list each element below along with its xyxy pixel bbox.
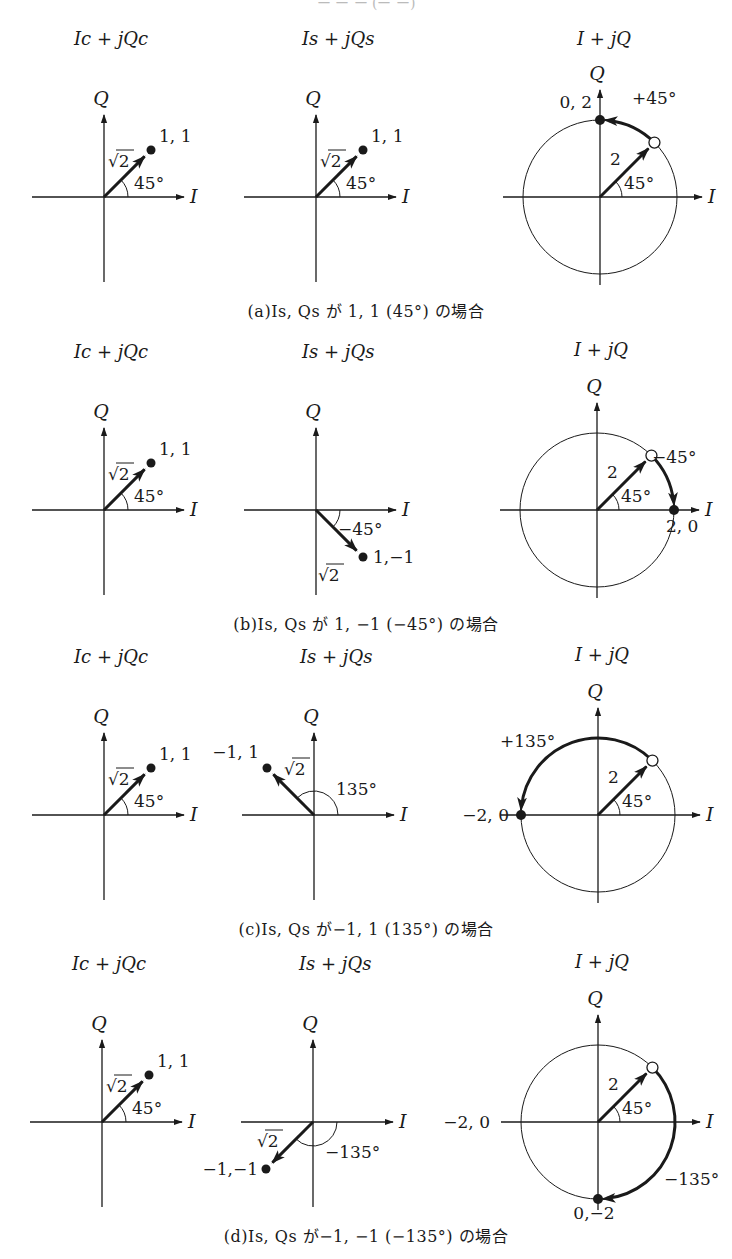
- signal-a-i-axis-label: I: [401, 185, 410, 207]
- signal-c-length-label: √2: [284, 759, 306, 779]
- result-b-start-angle-arc: [613, 494, 619, 510]
- panel-a: Ic + jQcIs + jQsI + jQIQ1, 1√245°IQ1, 1√…: [32, 28, 716, 285]
- carrier-c-q-axis-label: Q: [93, 705, 109, 727]
- result-b-end-point-label: 2, 0: [666, 516, 698, 536]
- signal-d-angle-label: −135°: [325, 1142, 380, 1162]
- title-result: I + jQ: [576, 28, 631, 49]
- result-c-start-point: [647, 755, 658, 766]
- title-result: I + jQ: [574, 644, 629, 665]
- signal-d-i-axis-label: I: [398, 1110, 407, 1132]
- signal-c-i-axis-label: I: [399, 803, 408, 825]
- result-c-end-point: [516, 810, 526, 820]
- signal-c-point-label: −1, 1: [212, 742, 259, 762]
- signal-a-point-dot: [359, 145, 368, 154]
- signal-a-q-axis-label: Q: [305, 87, 321, 109]
- title-carrier: Ic + jQc: [73, 341, 148, 362]
- result-d-radius-label: 2: [608, 1074, 619, 1094]
- signal-b-i-axis-label: I: [401, 498, 410, 520]
- carrier-b-i-axis-label: I: [189, 498, 198, 520]
- signal-b-length-label: √2: [318, 565, 340, 585]
- carrier-d-i-axis-label: I: [187, 1110, 196, 1132]
- result-a-start-angle-arc: [616, 181, 622, 197]
- caption-b: (b)Is, Qs が 1, −1 (−45°) の場合: [0, 611, 732, 635]
- carrier-b-point-label: 1, 1: [159, 439, 191, 459]
- result-b-end-point: [669, 505, 679, 515]
- carrier-a-point-dot: [147, 145, 156, 154]
- caption-a: (a)Is, Qs が 1, 1 (45°) の場合: [0, 298, 732, 322]
- signal-c-vector-arrow: [273, 774, 314, 815]
- result-d-start-angle-label: 45°: [622, 1098, 652, 1118]
- panel-d: Ic + jQcIs + jQsI + jQIQ1, 1√245°IQ−1,−1…: [30, 951, 719, 1223]
- result-d-left-axis-label: −2, 0: [443, 1112, 490, 1132]
- carrier-d-point-label: 1, 1: [157, 1051, 189, 1071]
- result-a-start-point: [649, 137, 660, 148]
- result-d-q-axis-label: Q: [587, 987, 603, 1009]
- signal-b-point-dot: [359, 553, 368, 562]
- carrier-b-q-axis-label: Q: [93, 400, 109, 422]
- result-b-i-axis-label: I: [704, 498, 713, 520]
- signal-c-q-axis-label: Q: [303, 705, 319, 727]
- title-signal: Is + jQs: [301, 341, 374, 362]
- result-d-start-point: [647, 1062, 658, 1073]
- carrier-a-i-axis-label: I: [189, 185, 198, 207]
- carrier-a-length-label: √2: [108, 151, 130, 171]
- carrier-b-point-dot: [147, 458, 156, 467]
- carrier-c-length-label: √2: [108, 769, 130, 789]
- carrier-c-i-axis-label: I: [189, 803, 198, 825]
- carrier-c-angle-arc: [121, 798, 128, 815]
- result-c-start-angle-label: 45°: [622, 791, 652, 811]
- signal-b-point-label: 1,−1: [373, 547, 414, 567]
- title-result: I + jQ: [573, 339, 628, 360]
- signal-a-angle-arc: [333, 180, 340, 197]
- result-d-start-angle-arc: [614, 1106, 620, 1122]
- signal-d-q-axis-label: Q: [302, 1012, 318, 1034]
- result-c-end-point-label: −2, 0: [462, 805, 509, 825]
- panel-c: Ic + jQcIs + jQsI + jQIQ1, 1√245°IQ−1, 1…: [32, 644, 714, 903]
- result-c-q-axis-label: Q: [587, 680, 603, 702]
- result-d-end-point-label: 0,−2: [573, 1203, 614, 1223]
- carrier-d-angle-arc: [119, 1105, 126, 1122]
- signal-c-point-dot: [262, 763, 271, 772]
- title-signal: Is + jQs: [301, 28, 374, 49]
- title-carrier: Ic + jQc: [73, 646, 148, 667]
- signal-a-angle-label: 45°: [346, 173, 376, 193]
- result-d-i-axis-label: I: [705, 1110, 714, 1132]
- signal-a-length-label: √2: [320, 151, 342, 171]
- title-signal: Is + jQs: [299, 646, 372, 667]
- signal-a-point-label: 1, 1: [371, 126, 403, 146]
- result-a-end-point-label: 0, 2: [560, 92, 592, 112]
- carrier-a-q-axis-label: Q: [93, 87, 109, 109]
- carrier-b-angle-arc: [121, 493, 128, 510]
- signal-d-length-label: √2: [257, 1131, 279, 1151]
- signal-d-point-dot: [261, 1165, 270, 1174]
- title-carrier: Ic + jQc: [71, 953, 146, 974]
- result-c-radius-label: 2: [608, 767, 619, 787]
- carrier-d-q-axis-label: Q: [91, 1012, 107, 1034]
- result-b-radius-label: 2: [607, 462, 618, 482]
- title-result: I + jQ: [574, 951, 629, 972]
- carrier-d-length-label: √2: [106, 1076, 128, 1096]
- panel-b: Ic + jQcIs + jQsI + jQIQ1, 1√245°IQ1,−1√…: [32, 339, 713, 598]
- carrier-c-point-dot: [147, 763, 156, 772]
- title-signal: Is + jQs: [298, 953, 371, 974]
- signal-b-angle-label: −45°: [338, 519, 382, 539]
- result-c-rotation-label: +135°: [500, 731, 555, 751]
- carrier-a-angle-arc: [121, 180, 128, 197]
- carrier-c-angle-label: 45°: [134, 791, 164, 811]
- caption-d: (d)Is, Qs が−1, −1 (−135°) の場合: [0, 1223, 732, 1247]
- signal-c-angle-label: 135°: [336, 779, 377, 799]
- signal-d-point-label: −1,−1: [202, 1159, 258, 1179]
- result-a-end-point: [595, 115, 605, 125]
- result-a-rotation-label: +45°: [632, 88, 676, 108]
- title-carrier: Ic + jQc: [73, 28, 148, 49]
- carrier-b-length-label: √2: [108, 464, 130, 484]
- result-a-i-axis-label: I: [707, 185, 716, 207]
- result-b-rotation-label: −45°: [652, 447, 696, 467]
- result-a-q-axis-label: Q: [589, 62, 605, 84]
- result-a-start-angle-label: 45°: [624, 173, 654, 193]
- result-c-i-axis-label: I: [705, 803, 714, 825]
- carrier-a-angle-label: 45°: [134, 173, 164, 193]
- carrier-d-point-dot: [145, 1070, 154, 1079]
- carrier-d-angle-label: 45°: [132, 1098, 162, 1118]
- result-b-start-angle-label: 45°: [621, 486, 651, 506]
